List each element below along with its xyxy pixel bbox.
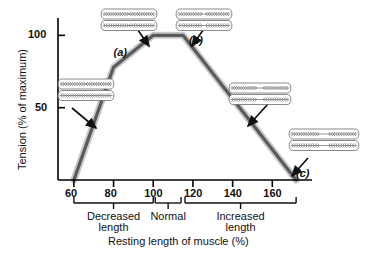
- x-tick-label: 60: [65, 188, 77, 199]
- range-label-line2: length: [201, 222, 281, 233]
- x-tick-label: 160: [263, 188, 281, 199]
- arrow-to-descending-limb-icon: [248, 104, 268, 126]
- sarcomere-stretched-icon: [229, 83, 291, 105]
- x-axis-title: Resting length of muscle (%): [108, 236, 249, 247]
- x-tick-label: 140: [224, 188, 242, 199]
- x-tick-label: 120: [184, 188, 202, 199]
- range-label-line1: Normal: [128, 211, 208, 222]
- range-label-line2: length: [74, 222, 154, 233]
- callout-label-b: (b): [189, 35, 203, 46]
- x-axis-ticks: [74, 180, 272, 187]
- length-tension-figure: Tension (% of maximum) Resting length of…: [0, 0, 384, 254]
- y-tick-label: 100: [28, 29, 46, 40]
- x-tick-label: 100: [144, 188, 162, 199]
- tension-curve-group: [74, 35, 296, 180]
- y-axis-title: Tension (% of maximum): [16, 49, 28, 170]
- sarcomere-c-icon: [289, 129, 359, 151]
- sarcomere-b-icon: [176, 9, 232, 31]
- range-label: Normal: [128, 211, 208, 222]
- sarcomere-icons-group: [58, 9, 359, 151]
- range-label: Increasedlength: [201, 211, 281, 233]
- callout-label-c: (c): [296, 168, 309, 179]
- callout-label-a: (a): [114, 47, 127, 58]
- tension-curve-halo: [74, 35, 296, 180]
- x-tick-label: 80: [105, 188, 117, 199]
- tension-curve-line: [74, 35, 296, 180]
- sarcomere-peak-left-icon: [101, 9, 157, 31]
- y-tick-label: 50: [35, 102, 47, 113]
